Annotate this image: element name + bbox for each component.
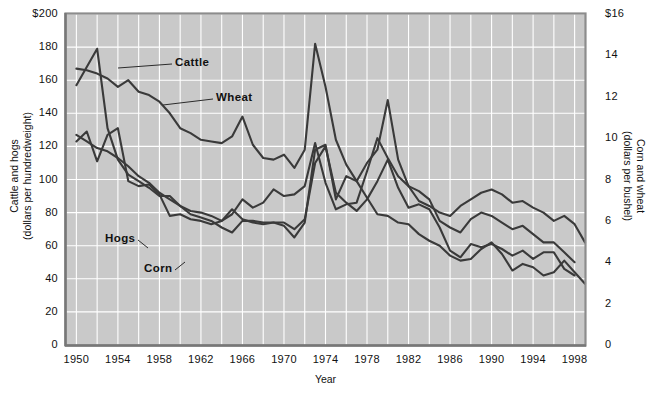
y-axis-right-tick-4: 4	[605, 255, 611, 267]
y-axis-right-title: Corn and wheat(dollars per bushel)	[617, 90, 651, 270]
x-axis-tick-1990: 1990	[474, 353, 510, 365]
y-axis-left-tick-60: 60	[45, 239, 58, 251]
y-axis-right-tick-8: 8	[605, 173, 611, 185]
y-axis-left-tick-20: 20	[45, 305, 58, 317]
series-label-corn: Corn	[144, 262, 172, 274]
series-label-wheat: Wheat	[216, 91, 253, 103]
x-axis-tick-1954: 1954	[100, 353, 136, 365]
y-axis-left-tick-0: 0	[52, 338, 58, 350]
y-axis-right-tick-6: 6	[605, 214, 611, 226]
series-label-hogs: Hogs	[105, 232, 135, 244]
y-axis-right-title-line-1: Corn and wheat	[634, 86, 647, 266]
x-axis-tick-1998: 1998	[557, 353, 593, 365]
y-axis-left-tick-140: 140	[39, 106, 58, 118]
x-axis-tick-1994: 1994	[515, 353, 551, 365]
x-axis-title: Year	[286, 373, 366, 385]
price-trends-chart: 020406080100120140160180$20002468101214$…	[0, 0, 653, 399]
y-axis-left-tick-200: $200	[32, 7, 58, 19]
series-label-cattle: Cattle	[175, 56, 209, 68]
x-axis-tick-1986: 1986	[432, 353, 468, 365]
x-axis-tick-1958: 1958	[141, 353, 177, 365]
y-axis-left-title-line-2: (dollars per hundredweight)	[21, 86, 34, 266]
chart-canvas	[0, 0, 653, 399]
x-axis-tick-1950: 1950	[58, 353, 94, 365]
x-axis-tick-1970: 1970	[266, 353, 302, 365]
y-axis-left-tick-80: 80	[45, 206, 58, 218]
y-axis-right-tick-16: $16	[605, 7, 624, 19]
x-axis-tick-1966: 1966	[224, 353, 260, 365]
y-axis-right-title-line-2: (dollars per bushel)	[621, 86, 634, 266]
y-axis-left-title: Cattle and hogs(dollars per hundredweigh…	[4, 90, 38, 270]
y-axis-right-tick-10: 10	[605, 131, 618, 143]
y-axis-right-tick-12: 12	[605, 90, 618, 102]
y-axis-right-tick-2: 2	[605, 297, 611, 309]
y-axis-left-tick-180: 180	[39, 40, 58, 52]
y-axis-right-tick-14: 14	[605, 48, 618, 60]
y-axis-right-tick-0: 0	[605, 338, 611, 350]
y-axis-left-tick-120: 120	[39, 139, 58, 151]
x-axis-tick-1962: 1962	[183, 353, 219, 365]
y-axis-left-tick-100: 100	[39, 173, 58, 185]
x-axis-tick-1974: 1974	[308, 353, 344, 365]
x-axis-tick-1982: 1982	[391, 353, 427, 365]
x-axis-tick-1978: 1978	[349, 353, 385, 365]
y-axis-left-tick-160: 160	[39, 73, 58, 85]
y-axis-left-title-line-1: Cattle and hogs	[8, 86, 21, 266]
y-axis-left-tick-40: 40	[45, 272, 58, 284]
